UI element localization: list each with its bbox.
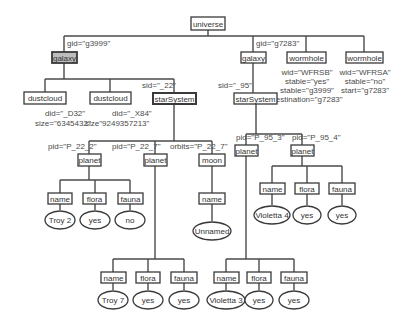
node-planet-p95-3: pid="P_95_3" planet <box>235 133 285 156</box>
leaf-value: yes <box>301 211 313 220</box>
flora-element: flora <box>87 195 103 204</box>
leaf-value: no <box>126 216 135 225</box>
node-starsystem-22: sid="_22" starSystem <box>142 81 196 104</box>
attr-label: size"9249357213" <box>85 119 150 128</box>
attr-label: gid="g7283" <box>256 39 299 48</box>
leaf-value: Violetta 3 <box>209 296 243 305</box>
leaf-value: Violetta 4 <box>255 211 289 220</box>
node-label: planet <box>145 156 168 165</box>
attr-label: stable="g3999" <box>280 86 334 95</box>
name-element: name <box>262 185 283 194</box>
node-label: starSystem <box>235 95 275 104</box>
attr-label: stable="no" <box>345 77 386 86</box>
xml-tree-diagram: universe gid="g3999" galaxy gid="g7283" … <box>0 0 405 334</box>
attr-label: did="_X84" <box>112 109 152 118</box>
children-p95-3: name flora fauna Violetta 3 yes yes <box>207 272 309 309</box>
node-planet-p95-4: pid="P_95_4" planet <box>291 133 341 156</box>
name-element: name <box>50 195 71 204</box>
attr-label: did="_D32" <box>45 109 85 118</box>
attr-label: wid="WFRSB" <box>280 68 332 77</box>
fauna-element: fauna <box>284 274 305 283</box>
fauna-element: fauna <box>120 195 141 204</box>
flora-element: flora <box>251 274 267 283</box>
attr-label: pid="P_95_4" <box>292 133 341 142</box>
flora-element: flora <box>140 274 156 283</box>
node-label: universe <box>193 20 224 29</box>
node-wormhole-wfrsb: wormhole wid="WFRSB" stable="yes" stable… <box>271 52 342 104</box>
attr-label: start="g7283" <box>341 86 389 95</box>
name-element: name <box>216 274 237 283</box>
node-label: planet <box>236 147 259 156</box>
fauna-element: fauna <box>332 185 353 194</box>
children-p22-2: name flora fauna Troy 2 yes no <box>45 193 145 229</box>
node-wormhole-wfrsa: wormhole wid="WFRSA" stable="no" start="… <box>338 52 390 95</box>
node-dustcloud-d32: dustcloud did="_D32" size="6345432" <box>24 92 91 128</box>
children-p95-4: name flora fauna Violetta 4 yes yes <box>254 183 356 224</box>
node-label: planet <box>292 147 315 156</box>
attr-label: pid="P_22_2" <box>48 142 97 151</box>
node-label: dustcloud <box>28 94 62 103</box>
attr-label: pid="P_22_7" <box>112 142 161 151</box>
node-label: starSystem <box>154 95 194 104</box>
flora-element: flora <box>299 185 315 194</box>
node-universe: universe <box>191 17 225 30</box>
attr-label: gid="g3999" <box>67 39 110 48</box>
attr-label: pid="P_95_3" <box>236 133 285 142</box>
leaf-value: Troy 7 <box>102 296 125 305</box>
leaf-value: yes <box>178 296 190 305</box>
node-starsystem-95: sid="_95" starSystem <box>218 81 277 104</box>
children-p22-7: name flora fauna Troy 7 yes yes <box>98 272 199 309</box>
node-label: galaxy <box>242 54 265 63</box>
node-label: galaxy <box>53 54 76 63</box>
attr-label: sid="_95" <box>218 81 252 90</box>
node-label: wormhole <box>288 54 324 63</box>
leaf-value: yes <box>253 296 265 305</box>
name-element: name <box>202 195 223 204</box>
node-moon: orbits="P_22_7" moon <box>170 142 228 166</box>
leaf-value: yes <box>142 296 154 305</box>
leaf-value: Unnamed <box>195 227 230 236</box>
attr-label: stable="yes" <box>285 77 329 86</box>
attr-label: size="6345432" <box>35 119 91 128</box>
node-label: dustcloud <box>93 94 127 103</box>
node-label: wormhole <box>346 54 382 63</box>
node-dustcloud-x84: dustcloud did="_X84" size"9249357213" <box>85 92 152 128</box>
fauna-element: fauna <box>174 274 195 283</box>
node-planet-p22-7: pid="P_22_7" planet <box>112 142 167 166</box>
leaf-value: yes <box>336 211 348 220</box>
node-planet-p22-2: pid="P_22_2" planet <box>48 142 101 166</box>
attr-label: orbits="P_22_7" <box>170 142 228 151</box>
attr-label: destination="g7283" <box>271 95 342 104</box>
node-label: planet <box>79 156 102 165</box>
leaf-value: yes <box>288 296 300 305</box>
leaf-value: yes <box>89 216 101 225</box>
attr-label: wid="WFRSA" <box>338 68 390 77</box>
node-galaxy-g3999: gid="g3999" galaxy <box>52 39 110 63</box>
attr-label: sid="_22" <box>142 81 176 90</box>
node-label: moon <box>202 156 222 165</box>
name-element: name <box>103 274 124 283</box>
leaf-value: Troy 2 <box>49 216 72 225</box>
